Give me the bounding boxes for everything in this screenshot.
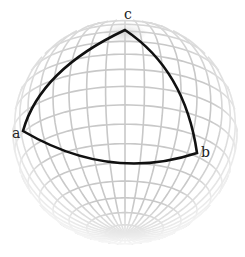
sphere-edge-fade — [12, 19, 238, 245]
vertex-label-b: b — [201, 144, 210, 160]
vertex-label-c: c — [124, 6, 132, 22]
vertex-label-a: a — [12, 125, 20, 141]
spherical-triangle-diagram: c a b — [0, 0, 245, 257]
